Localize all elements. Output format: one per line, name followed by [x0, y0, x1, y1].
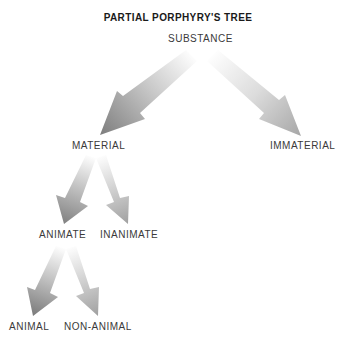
arrow-material-to-animate: [56, 155, 96, 224]
arrows-layer: [0, 0, 356, 344]
diagram-title: PARTIAL PORPHYRY'S TREE: [0, 12, 356, 23]
node-material: MATERIAL: [72, 140, 125, 151]
node-non-animal: NON-ANIMAL: [64, 321, 132, 332]
node-animal: ANIMAL: [9, 321, 49, 332]
arrow-substance-to-material: [100, 50, 197, 135]
arrow-substance-to-immaterial: [207, 50, 301, 136]
arrow-animate-to-animal: [27, 246, 66, 316]
arrow-animate-to-non-animal: [66, 246, 99, 316]
node-inanimate: INANIMATE: [100, 229, 158, 240]
arrow-material-to-inanimate: [96, 155, 129, 224]
node-immaterial: IMMATERIAL: [270, 140, 335, 151]
node-substance: SUBSTANCE: [168, 33, 233, 44]
node-animate: ANIMATE: [39, 229, 86, 240]
